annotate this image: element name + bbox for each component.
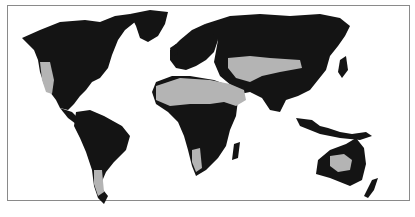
greenland [130, 10, 168, 42]
new-zealand [364, 178, 378, 198]
world-map [0, 0, 415, 217]
land-masses [22, 10, 378, 204]
southeast-asia-islands [296, 118, 372, 140]
north-america [22, 14, 140, 110]
madagascar [232, 142, 240, 160]
japan [338, 56, 348, 78]
